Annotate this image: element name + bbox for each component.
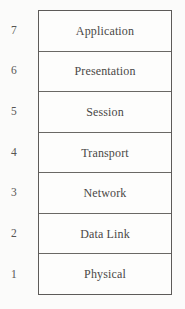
osi-layer-diagram: 7 6 5 4 3 2 1 Application Presentation S…: [0, 0, 185, 309]
layer-number-4: 4: [0, 132, 38, 173]
layer-number-5: 5: [0, 91, 38, 132]
layer-row-physical: Physical: [39, 254, 171, 294]
layer-label-session: Session: [86, 106, 124, 118]
layer-number-3: 3: [0, 173, 38, 214]
layer-number-column: 7 6 5 4 3 2 1: [0, 10, 38, 295]
layer-label-physical: Physical: [84, 268, 126, 280]
layer-row-data-link: Data Link: [39, 214, 171, 255]
layer-row-network: Network: [39, 173, 171, 214]
layer-row-session: Session: [39, 92, 171, 133]
layer-stack: Application Presentation Session Transpo…: [38, 10, 172, 295]
layer-label-transport: Transport: [81, 147, 129, 159]
layer-row-presentation: Presentation: [39, 52, 171, 93]
layer-label-data-link: Data Link: [80, 228, 130, 240]
layer-number-7: 7: [0, 10, 38, 51]
layer-label-presentation: Presentation: [74, 65, 135, 77]
layer-label-network: Network: [83, 187, 126, 199]
layer-row-application: Application: [39, 11, 171, 52]
layer-label-application: Application: [76, 25, 134, 37]
layer-row-transport: Transport: [39, 133, 171, 174]
layer-number-2: 2: [0, 214, 38, 255]
layer-number-6: 6: [0, 51, 38, 92]
layer-number-1: 1: [0, 254, 38, 295]
